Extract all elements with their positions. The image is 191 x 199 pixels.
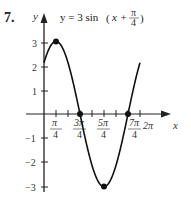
x-axis: x π 4 3π 4 5π 4 7π: [26, 110, 178, 140]
y-tick-2: 2: [32, 62, 37, 73]
x-tick-5pi-over-4: 5π 4: [97, 117, 110, 140]
x-axis-arrow-icon: [161, 111, 171, 118]
svg-text:7π: 7π: [129, 117, 140, 128]
y-tick-neg2: −2: [25, 157, 36, 168]
svg-text:4: 4: [77, 129, 82, 140]
svg-text:π: π: [52, 117, 58, 128]
y-tick-neg1: −1: [25, 133, 36, 144]
title-frac-den: 4: [131, 17, 136, 28]
y-axis-label: y: [32, 10, 38, 22]
y-axis: y 3 2 1 −1 −2 −3: [25, 10, 48, 193]
y-tick-neg3: −3: [25, 182, 36, 193]
y-tick-3: 3: [32, 38, 37, 49]
x-tick-7pi-over-4: 7π 4: [128, 117, 141, 140]
title-paren-close: ): [140, 12, 144, 25]
problem-number: 7.: [4, 10, 15, 25]
marked-point: [53, 38, 59, 44]
svg-text:4: 4: [101, 129, 106, 140]
x-tick-2pi: 2π: [143, 120, 154, 131]
svg-text:5π: 5π: [98, 117, 109, 128]
marked-point: [125, 111, 131, 117]
x-axis-label: x: [172, 119, 178, 131]
y-axis-arrow-icon: [41, 13, 48, 23]
title-arg: x +: [111, 11, 127, 23]
svg-text:4: 4: [53, 129, 58, 140]
sine-graph: 7. y = 3 sin ( x + π 4 ) y 3 2 1 −1 −2 −…: [0, 0, 191, 199]
title-lhs: y = 3 sin: [60, 11, 99, 23]
x-tick-pi-over-4: π 4: [50, 117, 62, 140]
marked-point: [77, 111, 83, 117]
svg-text:4: 4: [132, 129, 137, 140]
title-paren-open: (: [106, 12, 110, 25]
chart-title: y = 3 sin ( x + π 4 ): [60, 7, 144, 28]
y-tick-1: 1: [32, 86, 37, 97]
marked-point: [101, 184, 107, 190]
